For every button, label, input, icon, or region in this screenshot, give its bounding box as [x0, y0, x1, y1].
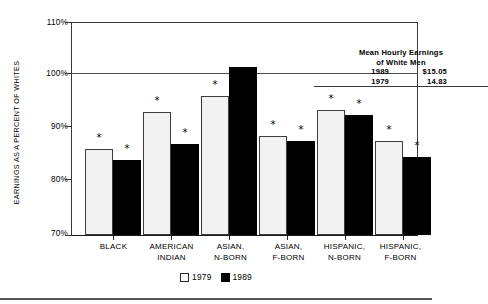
- y-tick-label-110: 110%: [28, 18, 68, 27]
- annotation-line-2: of White Men: [314, 58, 488, 68]
- annotation-row-1989: 1989$15.05: [314, 67, 488, 77]
- annotation-year-1989: 1989: [355, 67, 389, 77]
- x-tick-hispanic-f-born: [403, 236, 404, 240]
- annotation-box: Mean Hourly Earnings of White Men 1989$1…: [314, 45, 488, 87]
- x-tick-asian-f-born: [287, 236, 288, 240]
- legend-label-1989: 1989: [233, 272, 252, 282]
- y-tick-label-100: 100%: [28, 69, 68, 78]
- y-tick-label-80: 80%: [28, 175, 68, 184]
- legend-item-1989: 1989: [221, 272, 252, 282]
- bar-asian-f-born-1979: [259, 136, 287, 235]
- y-tick-label-70: 70%: [28, 229, 68, 238]
- bar-american-indian-1979: [143, 112, 171, 235]
- annotation-value-1979: 14.83: [389, 77, 447, 87]
- significance-star-black-1989: *: [121, 144, 133, 154]
- bar-hispanic-f-born-1989: [403, 157, 431, 235]
- x-axis-label-hispanic-f-born: HISPANIC, F-BORN: [358, 242, 443, 263]
- annotation-row-1979: 197914.83: [314, 77, 488, 87]
- x-tick-asian-n-born: [229, 236, 230, 240]
- x-tick-american-indian: [171, 236, 172, 240]
- bar-black-1979: [85, 149, 113, 235]
- y-tick-label-90: 90%: [28, 122, 68, 131]
- bar-american-indian-1989: [171, 144, 199, 235]
- bar-asian-n-born-1979: [201, 96, 229, 235]
- significance-star-hispanic-f-born-1989: *: [411, 141, 423, 151]
- annotation-value-1989: $15.05: [389, 67, 447, 77]
- legend-item-1979: 1979: [180, 272, 211, 282]
- significance-star-black-1979: *: [93, 133, 105, 143]
- axis-line-bottom: [71, 235, 418, 237]
- annotation-year-1979: 1979: [355, 77, 389, 87]
- legend-swatch-black-square: [221, 273, 230, 282]
- axis-line-left: [71, 22, 72, 236]
- annotation-line-1: Mean Hourly Earnings: [314, 48, 488, 58]
- legend-label-1979: 1979: [192, 272, 211, 282]
- significance-star-american-indian-1989: *: [179, 128, 191, 138]
- bar-asian-f-born-1989: [287, 141, 315, 235]
- significance-star-asian-n-born-1979: *: [209, 80, 221, 90]
- significance-star-american-indian-1979: *: [151, 96, 163, 106]
- chart-legend: 1979 1989: [0, 272, 432, 282]
- bar-hispanic-n-born-1989: [345, 115, 373, 234]
- significance-star-hispanic-f-born-1979: *: [383, 125, 395, 135]
- y-axis-title: EARNINGS AS A PERCENT OF WHITES: [12, 23, 21, 243]
- gridline-110: [71, 22, 418, 23]
- significance-star-hispanic-n-born-1989: *: [353, 99, 365, 109]
- significance-star-asian-f-born-1979: *: [267, 120, 279, 130]
- significance-star-hispanic-n-born-1979: *: [325, 94, 337, 104]
- significance-star-asian-f-born-1989: *: [295, 125, 307, 135]
- x-tick-black: [113, 236, 114, 240]
- plot-area: * * * * * * * * * * * Mean H: [71, 22, 418, 236]
- bar-hispanic-f-born-1979: [375, 141, 403, 235]
- x-tick-hispanic-n-born: [345, 236, 346, 240]
- bottom-divider: [0, 298, 432, 300]
- legend-swatch-white-square: [180, 273, 189, 282]
- bar-asian-n-born-1989: [229, 67, 257, 234]
- bar-black-1989: [113, 160, 141, 235]
- bar-hispanic-n-born-1979: [317, 110, 345, 235]
